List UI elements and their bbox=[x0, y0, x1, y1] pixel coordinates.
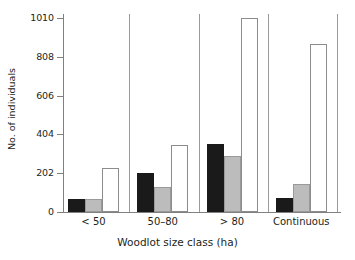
y-tick-label: 404 bbox=[18, 129, 54, 139]
x-category-label: 50–80 bbox=[123, 216, 203, 228]
bar-black bbox=[207, 144, 224, 212]
bar-gray bbox=[293, 184, 310, 212]
bar-group bbox=[202, 18, 271, 212]
chart-figure: No. of individuals 02024046068081010 < 5… bbox=[0, 0, 355, 260]
group-separator bbox=[129, 14, 130, 212]
y-tick-label: 606 bbox=[18, 91, 54, 101]
y-tick-label: 0 bbox=[18, 207, 54, 217]
bar-white bbox=[171, 145, 188, 212]
y-tick-label: 808 bbox=[18, 52, 54, 62]
x-axis-label: Woodlot size class (ha) bbox=[0, 236, 355, 248]
group-separator bbox=[199, 14, 200, 212]
bar-white bbox=[241, 18, 258, 212]
y-tick-label: 202 bbox=[18, 168, 54, 178]
y-tick-label: 1010 bbox=[18, 13, 54, 23]
bar-group bbox=[132, 18, 201, 212]
group-separator bbox=[268, 14, 269, 212]
x-category-label: Continuous bbox=[261, 216, 341, 228]
bar-white bbox=[310, 44, 327, 212]
bar-black bbox=[68, 199, 85, 212]
x-axis-line bbox=[63, 212, 341, 213]
x-category-label: > 80 bbox=[192, 216, 272, 228]
bar-black bbox=[137, 173, 154, 212]
bar-gray bbox=[85, 199, 102, 212]
plot-area bbox=[63, 18, 340, 212]
bar-group bbox=[63, 18, 132, 212]
bar-gray bbox=[224, 156, 241, 212]
group-separator bbox=[337, 14, 338, 212]
x-category-label: < 50 bbox=[54, 216, 134, 228]
bar-group bbox=[271, 18, 340, 212]
bar-white bbox=[102, 168, 119, 212]
bar-black bbox=[276, 198, 293, 212]
bar-gray bbox=[154, 187, 171, 212]
